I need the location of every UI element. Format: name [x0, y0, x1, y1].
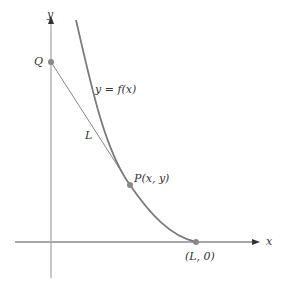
- tractrix-diagram: y x Q y = f(x) L P(x, y) (L, 0): [0, 0, 290, 284]
- point-l0: [193, 239, 199, 245]
- end-point-label: (L, 0): [185, 250, 215, 263]
- x-axis-arrow-icon: [252, 239, 260, 245]
- x-axis-label: x: [266, 235, 272, 248]
- curve-label: y = f(x): [95, 83, 136, 96]
- q-label: Q: [34, 55, 43, 68]
- diagram-canvas: [0, 0, 290, 284]
- p-label: P(x, y): [134, 172, 169, 185]
- curve: [76, 20, 196, 242]
- point-p: [127, 182, 133, 188]
- y-axis-label: y: [47, 8, 53, 21]
- segment-label: L: [85, 129, 92, 142]
- point-q: [48, 59, 54, 65]
